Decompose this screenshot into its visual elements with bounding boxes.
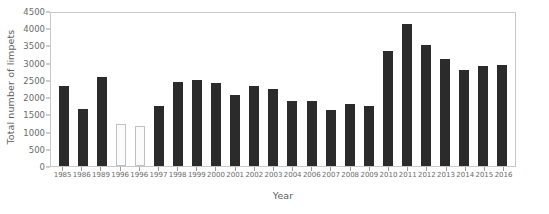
x-axis-tick-label: 1996 [111, 172, 129, 179]
bar [78, 109, 88, 166]
x-axis-tick-label: 2000 [207, 172, 225, 179]
bar [268, 89, 278, 166]
x-axis-tick-label: 2010 [380, 172, 398, 179]
y-axis-tick-label: 4500 [23, 8, 45, 17]
x-axis-tick-slot: 2013 [436, 167, 455, 183]
bar-slot [397, 13, 416, 166]
bar-slot [321, 13, 340, 166]
x-axis-tick-slot: 2014 [456, 167, 475, 183]
x-axis-title: Year [50, 190, 516, 201]
bar-series [51, 13, 515, 166]
bar [345, 104, 355, 166]
bar [249, 86, 259, 166]
bar-slot [436, 13, 455, 166]
bar-slot [283, 13, 302, 166]
bar [497, 65, 507, 166]
bar [478, 66, 488, 166]
x-axis-tick-slot: 1996 [130, 167, 149, 183]
x-axis-tick-label: 2011 [399, 172, 417, 179]
bar [135, 126, 145, 166]
limpets-bar-chart-figure: Total number of limpets 0500100015002000… [0, 0, 549, 214]
x-axis-tick-slot: 2011 [398, 167, 417, 183]
x-axis-tick-label: 1985 [54, 172, 72, 179]
x-axis-tick-label: 2009 [360, 172, 378, 179]
bar [59, 86, 69, 166]
bar-slot [54, 13, 73, 166]
bar-slot [111, 13, 130, 166]
x-axis-tick-label: 1997 [150, 172, 168, 179]
bar-slot [92, 13, 111, 166]
x-axis-tick-group: 1985198619891996199619971998199920002001… [50, 167, 516, 183]
x-axis-tick-label: 2016 [495, 172, 513, 179]
x-axis-tick-label: 2003 [265, 172, 283, 179]
y-axis-tick-label: 3000 [23, 59, 45, 68]
x-axis-tick-label: 1998 [169, 172, 187, 179]
x-axis-tick-slot: 2009 [360, 167, 379, 183]
bar-slot [188, 13, 207, 166]
bar [459, 70, 469, 166]
bar [154, 106, 164, 166]
y-axis-tick-label: 2000 [23, 94, 45, 103]
bar-slot [73, 13, 92, 166]
bar [192, 80, 202, 166]
y-axis-tick-label: 1500 [23, 111, 45, 120]
bar-slot [149, 13, 168, 166]
x-axis-tick-slot: 2003 [264, 167, 283, 183]
bar-slot [168, 13, 187, 166]
plot-area [50, 12, 516, 167]
bar-slot [378, 13, 397, 166]
x-axis-tick-slot: 2004 [283, 167, 302, 183]
bar-slot [226, 13, 245, 166]
bar-slot [474, 13, 493, 166]
x-axis-tick-label: 2012 [418, 172, 436, 179]
x-axis-tick-slot: 2016 [494, 167, 513, 183]
bar [383, 51, 393, 166]
x-axis-tick-slot: 2002 [245, 167, 264, 183]
x-axis-tick-slot: 1996 [111, 167, 130, 183]
x-axis-tick-slot: 1998 [168, 167, 187, 183]
bar [173, 82, 183, 166]
x-axis-tick-label: 2008 [341, 172, 359, 179]
x-axis-tick-label: 2004 [284, 172, 302, 179]
bar [97, 77, 107, 166]
bar [287, 101, 297, 166]
x-axis-tick-slot: 1997 [149, 167, 168, 183]
x-axis-tick-label: 1986 [73, 172, 91, 179]
x-axis-tick-label: 2015 [475, 172, 493, 179]
bar [364, 106, 374, 166]
bar-slot [264, 13, 283, 166]
x-axis-tick-label: 1989 [92, 172, 110, 179]
bar-slot [416, 13, 435, 166]
bar [421, 45, 431, 166]
x-axis-tick-label: 2007 [322, 172, 340, 179]
x-axis-tick-label: 2014 [456, 172, 474, 179]
y-axis-tick-label: 2500 [23, 77, 45, 86]
x-axis-tick-slot: 1985 [53, 167, 72, 183]
bar-slot [455, 13, 474, 166]
bar [326, 110, 336, 166]
x-axis-tick-slot: 2007 [321, 167, 340, 183]
x-axis-tick-slot: 1999 [187, 167, 206, 183]
y-axis-tick-label: 500 [29, 146, 45, 155]
x-axis-tick-slot: 2006 [302, 167, 321, 183]
x-axis-tick-slot: 2008 [341, 167, 360, 183]
bar-slot [359, 13, 378, 166]
x-axis-tick-slot: 2000 [206, 167, 225, 183]
x-axis-tick-slot: 1989 [91, 167, 110, 183]
y-axis-tick-group: 050010001500200025003000350040004500 [14, 12, 50, 167]
bar [116, 124, 126, 166]
y-axis-tick-label: 1000 [23, 128, 45, 137]
x-axis-tick-label: 1996 [130, 172, 148, 179]
x-axis-tick-slot: 1986 [72, 167, 91, 183]
y-axis-tick-label: 4000 [23, 25, 45, 34]
bar-slot [207, 13, 226, 166]
bar [402, 24, 412, 166]
x-axis-tick-label: 2002 [245, 172, 263, 179]
bar-slot [245, 13, 264, 166]
bar [307, 101, 317, 166]
x-axis-tick-slot: 2010 [379, 167, 398, 183]
bar [211, 83, 221, 166]
bar-slot [493, 13, 512, 166]
x-axis-tick-slot: 2015 [475, 167, 494, 183]
bar-slot [130, 13, 149, 166]
